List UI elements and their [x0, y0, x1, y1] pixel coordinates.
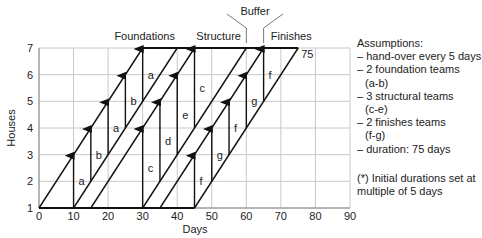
x-tick-label: 60 [240, 210, 252, 222]
x-tick-label: 20 [102, 210, 114, 222]
assumption-item: – duration: 75 days [357, 143, 481, 156]
team-label: a [113, 122, 120, 134]
assumptions-list: – hand-over every 5 days– 2 foundation t… [357, 50, 481, 156]
x-tick-label: 50 [206, 210, 218, 222]
y-tick-label: 5 [27, 95, 33, 107]
team-label: g [217, 149, 223, 161]
y-tick-label: 6 [27, 69, 33, 81]
x-tick-label: 10 [67, 210, 79, 222]
assumption-item-detail: (a-b) [357, 77, 481, 90]
x-tick-labels: 0102030405060708090 [36, 210, 356, 222]
x-axis-label: Days [182, 223, 208, 235]
buffer-label: Buffer [240, 5, 269, 17]
y-tick-label: 7 [27, 42, 33, 54]
y-tick-label: 2 [27, 175, 33, 187]
assumption-item: – 3 structural teams [357, 90, 481, 103]
team-label: g [251, 95, 257, 107]
phase-label: Foundations [114, 30, 175, 42]
x-tick-label: 90 [344, 210, 356, 222]
y-tick-label: 1 [27, 202, 33, 214]
y-axis-label: Houses [5, 109, 17, 147]
assumptions-title: Assumptions: [357, 37, 481, 50]
team-label: a [79, 175, 86, 187]
assumption-item-detail: (c-e) [357, 103, 481, 116]
end-duration-label: 75 [301, 48, 313, 60]
phase-label: Finishes [271, 30, 312, 42]
team-label: c [148, 162, 154, 174]
y-tick-labels: 1234567 [27, 42, 33, 214]
y-tick-label: 3 [27, 149, 33, 161]
footnote-line: multiple of 5 days [357, 185, 476, 198]
footnote-line: (*) Initial durations set at [357, 172, 476, 185]
y-tick-label: 4 [27, 122, 33, 134]
x-tick-label: 80 [309, 210, 321, 222]
assumption-item: – 2 finishes teams [357, 116, 481, 129]
assumption-item-detail: (f-g) [357, 129, 481, 142]
assumption-item: – hand-over every 5 days [357, 50, 481, 63]
x-tick-label: 30 [137, 210, 149, 222]
annotations: FoundationsStructureFinishesBuffer75 [114, 5, 313, 60]
phase-label: Structure [196, 30, 241, 42]
team-label: c [200, 82, 206, 94]
team-label: b [130, 95, 136, 107]
assumptions-panel: Assumptions: – hand-over every 5 days– 2… [357, 37, 481, 156]
team-label: b [96, 149, 102, 161]
x-tick-label: 40 [171, 210, 183, 222]
team-label: e [182, 109, 188, 121]
team-label: d [165, 135, 171, 147]
x-tick-label: 70 [275, 210, 287, 222]
team-label: a [148, 69, 155, 81]
assumption-item: – 2 foundation teams [357, 63, 481, 76]
x-tick-label: 0 [36, 210, 42, 222]
footnote: (*) Initial durations set at multiple of… [357, 172, 476, 198]
